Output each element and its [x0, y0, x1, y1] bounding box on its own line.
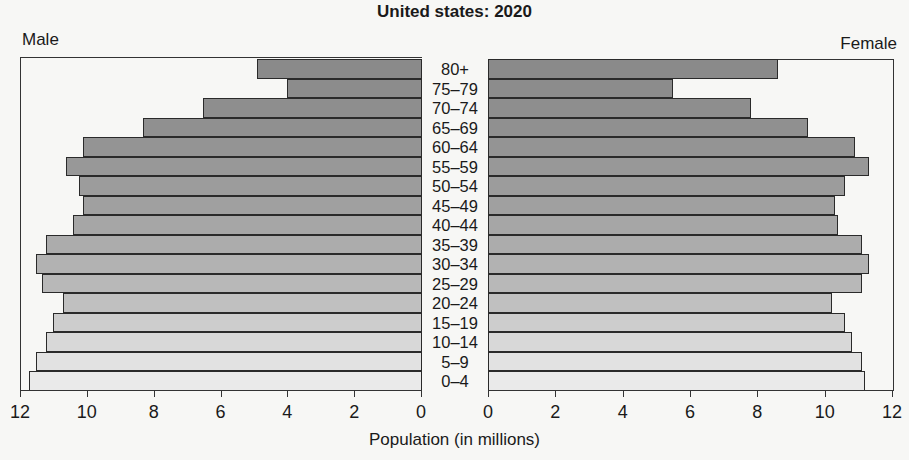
male-bar [66, 157, 422, 177]
male-bar [287, 79, 422, 99]
female-bar [488, 332, 852, 352]
age-group-label: 60–64 [422, 138, 488, 158]
x-tick-label: 12 [877, 402, 907, 423]
x-axis-label: Population (in millions) [0, 430, 909, 450]
age-group-label: 45–49 [422, 197, 488, 217]
x-tick-label: 2 [339, 402, 369, 423]
x-tick-label: 12 [5, 402, 35, 423]
female-bar [488, 235, 862, 255]
age-group-label: 15–19 [422, 314, 488, 334]
female-bar [488, 352, 862, 372]
x-tick-label: 8 [139, 402, 169, 423]
female-bar [488, 157, 869, 177]
x-tick-label: 6 [206, 402, 236, 423]
x-tick [20, 390, 21, 397]
x-tick-label: 8 [742, 402, 772, 423]
age-group-label: 30–34 [422, 255, 488, 275]
x-tick [690, 390, 691, 397]
x-tick [757, 390, 758, 397]
x-tick [354, 390, 355, 397]
age-group-label: 0–4 [422, 372, 488, 392]
female-bar [488, 176, 845, 196]
male-bar [46, 235, 422, 255]
female-bar [488, 254, 869, 274]
age-group-label: 50–54 [422, 177, 488, 197]
x-tick [488, 390, 489, 397]
female-bar [488, 274, 862, 294]
male-label: Male [22, 30, 59, 50]
age-group-label: 10–14 [422, 333, 488, 353]
female-bar [488, 313, 845, 333]
x-tick-label: 0 [406, 402, 436, 423]
female-bar [488, 98, 751, 118]
male-bar [143, 118, 422, 138]
x-tick [825, 390, 826, 397]
x-tick-label: 0 [473, 402, 503, 423]
x-tick [154, 390, 155, 397]
female-bar [488, 293, 832, 313]
x-tick-label: 4 [608, 402, 638, 423]
female-bar [488, 118, 808, 138]
age-group-label: 65–69 [422, 119, 488, 139]
female-x-axis [488, 390, 894, 391]
x-tick [892, 390, 893, 397]
male-bar [73, 215, 422, 235]
age-group-label: 70–74 [422, 99, 488, 119]
age-group-label: 40–44 [422, 216, 488, 236]
x-tick-label: 2 [540, 402, 570, 423]
age-group-label: 55–59 [422, 158, 488, 178]
age-group-label: 25–29 [422, 275, 488, 295]
male-bar [257, 59, 422, 79]
x-tick-label: 10 [810, 402, 840, 423]
age-group-label: 35–39 [422, 236, 488, 256]
x-tick [287, 390, 288, 397]
female-bar [488, 59, 778, 79]
male-bar [79, 176, 422, 196]
female-bar [488, 371, 865, 391]
x-tick [623, 390, 624, 397]
male-bar [83, 196, 422, 216]
x-tick [87, 390, 88, 397]
chart-title: United states: 2020 [0, 2, 909, 22]
x-tick [421, 390, 422, 397]
female-bar [488, 215, 838, 235]
x-tick-label: 4 [272, 402, 302, 423]
male-bar [63, 293, 422, 313]
female-bar [488, 137, 855, 157]
male-bar [83, 137, 422, 157]
male-bar [203, 98, 422, 118]
male-bar [36, 254, 422, 274]
female-bar [488, 196, 835, 216]
male-bar [29, 371, 422, 391]
female-bar [488, 79, 673, 99]
male-bar [53, 313, 423, 333]
x-tick [555, 390, 556, 397]
male-bar [36, 352, 422, 372]
x-tick-label: 6 [675, 402, 705, 423]
age-group-label: 20–24 [422, 294, 488, 314]
female-label: Female [840, 34, 897, 54]
male-bar [46, 332, 422, 352]
male-bar [42, 274, 422, 294]
age-group-label: 75–79 [422, 80, 488, 100]
x-tick [221, 390, 222, 397]
age-group-label: 5–9 [422, 353, 488, 373]
x-tick-label: 10 [72, 402, 102, 423]
age-group-label: 80+ [422, 60, 488, 80]
